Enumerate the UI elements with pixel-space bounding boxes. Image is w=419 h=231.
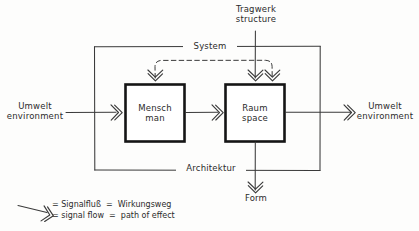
label-environment-left-de: Umwelt xyxy=(7,101,63,111)
label-structure-en: structure xyxy=(236,14,276,24)
diagram-canvas: Tragwerk structure System Architektur Me… xyxy=(0,0,419,231)
label-environment-right-en: environment xyxy=(357,111,413,121)
node-label-mensch-en: man xyxy=(138,113,172,123)
arrow-structure-to-space xyxy=(248,31,263,81)
label-form: Form xyxy=(245,193,267,203)
label-system: System xyxy=(194,41,227,51)
node-label-mensch: Mensch man xyxy=(138,103,172,123)
label-structure-de: Tragwerk xyxy=(236,4,276,14)
legend-line-de: = Signalfluß = Wirkungsweg xyxy=(52,200,175,211)
label-environment-left-en: environment xyxy=(7,111,63,121)
node-label-raum: Raum space xyxy=(242,103,268,123)
label-environment-right-de: Umwelt xyxy=(357,101,413,111)
feedback-loop-space-to-man xyxy=(148,60,280,81)
arrow-space-to-form xyxy=(248,142,263,193)
label-architektur: Architektur xyxy=(186,163,235,173)
label-environment-left: Umwelt environment xyxy=(7,101,63,121)
label-structure: Tragwerk structure xyxy=(236,4,276,24)
node-label-raum-de: Raum xyxy=(242,103,268,113)
legend-arrow-icon xyxy=(18,206,55,224)
legend: = Signalfluß = Wirkungsweg = signal flow… xyxy=(52,200,175,222)
legend-line-en: = signal flow = path of effect xyxy=(52,211,175,222)
node-label-mensch-de: Mensch xyxy=(138,103,172,113)
arrow-environment-to-man xyxy=(66,105,122,120)
node-label-raum-en: space xyxy=(242,113,268,123)
arrow-man-to-space xyxy=(186,105,224,120)
label-environment-right: Umwelt environment xyxy=(357,101,413,121)
